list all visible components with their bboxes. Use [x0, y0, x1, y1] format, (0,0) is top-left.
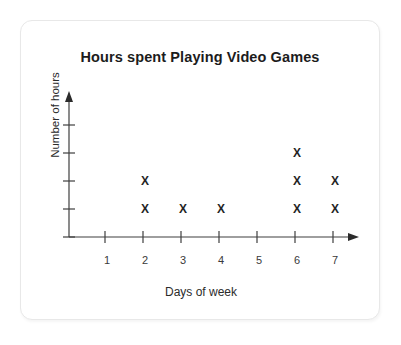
x-axis-tick-label: 1 [97, 254, 117, 266]
x-axis-tick-label: 3 [173, 254, 193, 266]
x-axis-label: Days of week [21, 285, 381, 299]
plot-area: Number of hours Days of week 1234567 XXX… [21, 21, 381, 321]
data-point-marker: X [213, 201, 229, 217]
data-point-marker: X [137, 201, 153, 217]
y-axis-label: Number of hours [49, 50, 61, 180]
data-point-marker: X [327, 201, 343, 217]
y-axis-arrow-icon [65, 91, 73, 102]
data-point-marker: X [289, 173, 305, 189]
data-point-marker: X [289, 145, 305, 161]
x-axis-tick-label: 5 [249, 254, 269, 266]
data-point-marker: X [327, 173, 343, 189]
x-axis-tick-label: 7 [325, 254, 345, 266]
x-axis-tick-label: 6 [287, 254, 307, 266]
data-point-marker: X [289, 201, 305, 217]
x-axis-tick-label: 2 [135, 254, 155, 266]
data-point-marker: X [137, 173, 153, 189]
x-axis-arrow-icon [348, 233, 359, 241]
chart-card: Hours spent Playing Video Games [20, 20, 380, 320]
chart-axes [21, 21, 381, 321]
data-point-marker: X [175, 201, 191, 217]
x-axis-tick-label: 4 [211, 254, 231, 266]
